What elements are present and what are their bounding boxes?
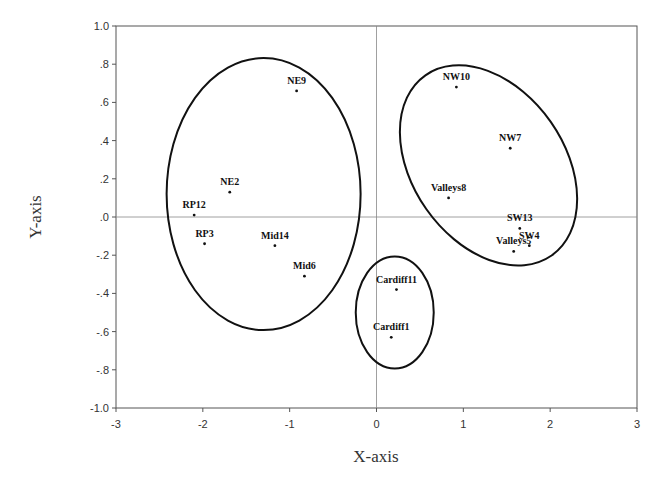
x-axis-ticks: -3-2-10123 xyxy=(111,408,640,430)
point-label: NW10 xyxy=(443,71,470,82)
point-label: Valleys8 xyxy=(431,182,466,193)
data-point: Cardiff1 xyxy=(373,321,410,338)
point-marker xyxy=(512,250,515,253)
point-label: SW13 xyxy=(507,212,533,223)
data-point: RP3 xyxy=(195,228,213,245)
y-tick-label: .2 xyxy=(100,173,109,185)
cluster-ellipses xyxy=(167,32,614,369)
point-label: Mid14 xyxy=(261,230,289,241)
x-tick-label: -2 xyxy=(198,418,208,430)
data-point: SW13 xyxy=(507,212,533,229)
data-point: NW7 xyxy=(499,132,521,149)
point-marker xyxy=(447,197,450,200)
y-tick-label: -.6 xyxy=(96,326,109,338)
point-marker xyxy=(509,147,512,150)
data-point: RP12 xyxy=(182,199,205,216)
point-marker xyxy=(203,242,206,245)
point-label: Cardiff1 xyxy=(373,321,410,332)
data-point: Mid6 xyxy=(293,260,316,277)
point-marker xyxy=(274,244,277,247)
y-tick-label: -1.0 xyxy=(90,402,109,414)
point-label: NE9 xyxy=(287,75,306,86)
x-tick-label: -1 xyxy=(285,418,295,430)
scatter-chart: 1.0.8.6.4.2.0-.2-.4-.6-.8-1.0 -3-2-10123… xyxy=(0,0,661,484)
right-cluster-ellipse xyxy=(363,32,614,299)
y-tick-label: .0 xyxy=(100,211,109,223)
data-point: NW10 xyxy=(443,71,470,88)
point-label: Mid6 xyxy=(293,260,316,271)
left-cluster-ellipse xyxy=(167,58,361,330)
point-label: RP12 xyxy=(182,199,205,210)
y-axis-title: Y-axis xyxy=(26,195,45,238)
data-point: Mid14 xyxy=(261,230,289,247)
point-marker xyxy=(395,288,398,291)
data-point: NE2 xyxy=(220,176,239,193)
y-tick-label: .6 xyxy=(100,96,109,108)
x-tick-label: 0 xyxy=(373,418,379,430)
point-marker xyxy=(303,275,306,278)
x-axis-title: X-axis xyxy=(353,447,398,466)
point-label: NW7 xyxy=(499,132,521,143)
y-tick-label: -.2 xyxy=(96,249,109,261)
y-tick-label: 1.0 xyxy=(94,20,109,32)
y-tick-label: .8 xyxy=(100,58,109,70)
y-tick-label: -.4 xyxy=(96,287,109,299)
x-tick-label: -3 xyxy=(111,418,121,430)
point-label: Valleys5 xyxy=(496,235,531,246)
point-marker xyxy=(295,90,298,93)
x-tick-label: 2 xyxy=(547,418,553,430)
point-marker xyxy=(390,336,393,339)
y-tick-label: .4 xyxy=(100,135,109,147)
point-marker xyxy=(193,214,196,217)
x-tick-label: 1 xyxy=(460,418,466,430)
y-tick-label: -.8 xyxy=(96,364,109,376)
data-point: NE9 xyxy=(287,75,306,92)
reference-lines xyxy=(116,26,637,408)
point-marker xyxy=(228,191,231,194)
data-point: Cardiff11 xyxy=(376,274,417,291)
point-marker xyxy=(455,86,458,89)
point-label: Cardiff11 xyxy=(376,274,417,285)
data-point: Valleys8 xyxy=(431,182,466,199)
data-point: Valleys5 xyxy=(496,235,531,252)
x-tick-label: 3 xyxy=(634,418,640,430)
y-axis-ticks: 1.0.8.6.4.2.0-.2-.4-.6-.8-1.0 xyxy=(90,20,116,414)
point-label: NE2 xyxy=(220,176,239,187)
point-label: RP3 xyxy=(195,228,213,239)
